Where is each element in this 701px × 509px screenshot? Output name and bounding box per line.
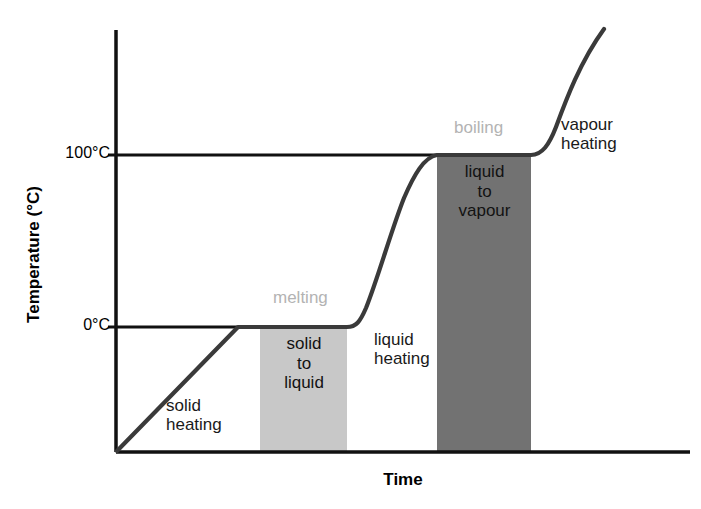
y-tick-label-100c: 100°C — [28, 144, 110, 162]
annotation-solid-heating: solid heating — [166, 396, 222, 434]
annotation-boiling: boiling — [454, 118, 503, 138]
annotation-vapour-heating: vapour heating — [561, 115, 617, 153]
annotation-liquid-heating: liquid heating — [374, 330, 430, 368]
chart-plot-area — [0, 0, 701, 509]
annotation-melting: melting — [273, 288, 328, 308]
y-tick-label-0c: 0°C — [28, 316, 110, 334]
annotation-liquid-to-vapour: liquid to vapour — [437, 162, 532, 221]
y-axis-title: Temperature (°C) — [22, 0, 46, 509]
annotation-solid-to-liquid: solid to liquid — [260, 334, 348, 393]
heating-curve-chart: Temperature (°C) Time 100°C 0°C solid he… — [0, 0, 701, 509]
x-axis-title: Time — [116, 470, 690, 490]
